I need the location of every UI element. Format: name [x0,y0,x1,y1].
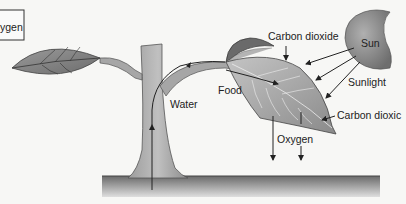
carbon-dioxide-top-label: Carbon dioxide [268,30,339,42]
big-leaf [226,57,336,134]
left-leaf [12,47,100,74]
oxygen-box-label: ygen [0,21,23,33]
photosynthesis-diagram: ygen Sun [0,0,406,204]
ground [102,176,380,197]
sun-label: Sun [361,37,380,49]
water-label: Water [170,98,198,110]
stem-trunk [128,44,188,178]
stem-left-branch [100,58,142,80]
sunlight-label: Sunlight [348,76,386,88]
sun: Sun [345,10,391,69]
oxygen-label-box: ygen [0,10,24,40]
food-label: Food [218,84,242,96]
carbon-dioxide-right-label: Carbon dioxic [337,109,401,121]
oxygen-bottom-label: Oxygen [277,133,313,145]
